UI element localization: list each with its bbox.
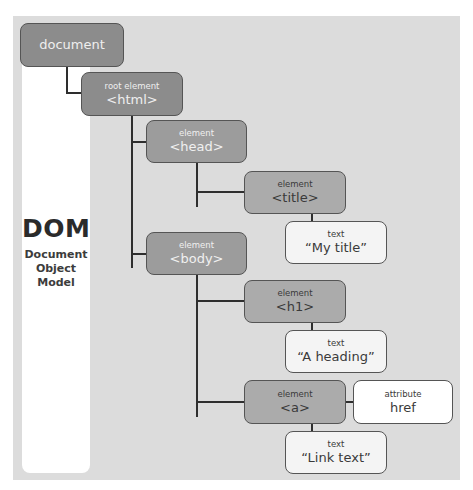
node-title-text-type: text (328, 229, 345, 240)
node-h1-text-value: “A heading” (297, 349, 374, 365)
connector-document-html (66, 67, 68, 94)
node-body: element <body> (146, 232, 247, 275)
node-head-name: <head> (169, 139, 223, 155)
node-a-name: <a> (280, 400, 310, 416)
connector-head-title (196, 163, 198, 207)
connector-document-html-h (66, 92, 82, 94)
node-h1: element <h1> (244, 280, 346, 323)
connector-body-a (196, 401, 245, 403)
connector-html-body (131, 253, 147, 255)
dom-expansion-word-1: Document (22, 248, 90, 262)
node-html-type: root element (105, 81, 160, 92)
node-a-text: text “Link text” (285, 431, 387, 474)
node-h1-name: <h1> (276, 299, 314, 315)
node-title-name: <title> (271, 190, 318, 206)
node-html: root element <html> (81, 72, 183, 116)
connector-body-children (196, 275, 198, 417)
node-h1-text-type: text (328, 338, 345, 349)
node-h1-text: text “A heading” (285, 330, 387, 373)
node-title-text-value: “My title” (305, 240, 367, 256)
node-html-name: <html> (106, 92, 157, 108)
node-body-type: element (179, 240, 214, 251)
node-a-attribute-name: href (390, 400, 416, 416)
dom-acronym: DOM (22, 214, 90, 243)
node-title: element <title> (244, 171, 346, 214)
node-a-attribute-type: attribute (384, 389, 421, 400)
node-title-text: text “My title” (285, 221, 387, 264)
dom-expansion-word-2: Object (22, 262, 90, 276)
node-head: element <head> (146, 120, 247, 163)
node-body-name: <body> (170, 251, 224, 267)
connector-body-h1 (196, 300, 245, 302)
node-a-type: element (277, 389, 312, 400)
node-document-name: document (39, 37, 105, 53)
node-document: document (20, 23, 124, 67)
dom-expansion-word-3: Model (22, 276, 90, 290)
dom-expansion: Document Object Model (22, 248, 90, 290)
node-h1-type: element (277, 288, 312, 299)
node-a-text-type: text (328, 439, 345, 450)
connector-head-title-h (196, 191, 245, 193)
node-a-attribute: attribute href (353, 380, 453, 424)
node-head-type: element (179, 128, 214, 139)
node-a: element <a> (244, 380, 346, 424)
node-title-type: element (277, 179, 312, 190)
node-a-text-value: “Link text” (301, 450, 370, 466)
connector-html-head (131, 141, 147, 143)
connector-html-children (131, 116, 133, 268)
